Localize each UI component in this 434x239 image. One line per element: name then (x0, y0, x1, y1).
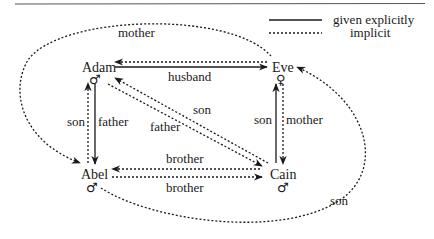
edge-label-cain-abel-brother: brother (166, 151, 204, 166)
edge-label-eve-cain-mother: mother (286, 112, 323, 127)
edge-eve-abel-mother (20, 24, 271, 163)
edge-label-abel-cain-brother: brother (166, 180, 204, 195)
family-relation-diagram: given explicitly implicit mother son hus… (0, 0, 434, 239)
node-cain: Cain ♂ (270, 167, 296, 195)
edge-abel-eve-son (101, 67, 365, 222)
edge-label-eve-abel-mother: mother (118, 25, 155, 40)
node-eve: Eve ♀ (272, 60, 294, 87)
male-symbol-icon: ♂ (86, 180, 98, 195)
edge-label-abel-eve-son: son (330, 193, 349, 208)
edge-label-abel-adam-son: son (67, 114, 86, 129)
edge-label-cain-eve-son: son (254, 112, 273, 127)
legend: given explicitly implicit (269, 12, 415, 40)
edge-label-husband: husband (168, 69, 212, 84)
male-symbol-icon: ♂ (89, 72, 101, 87)
edge-label-cain-adam-son: son (193, 102, 212, 117)
female-symbol-icon: ♀ (276, 72, 286, 87)
node-adam: Adam ♂ (82, 60, 116, 87)
edge-label-adam-abel-father: father (98, 114, 129, 129)
node-abel: Abel ♂ (81, 167, 108, 195)
legend-implicit-label: implicit (350, 25, 391, 40)
edge-label-adam-cain-father: father (150, 119, 181, 134)
top-rule (15, 4, 425, 5)
male-symbol-icon: ♂ (277, 180, 289, 195)
